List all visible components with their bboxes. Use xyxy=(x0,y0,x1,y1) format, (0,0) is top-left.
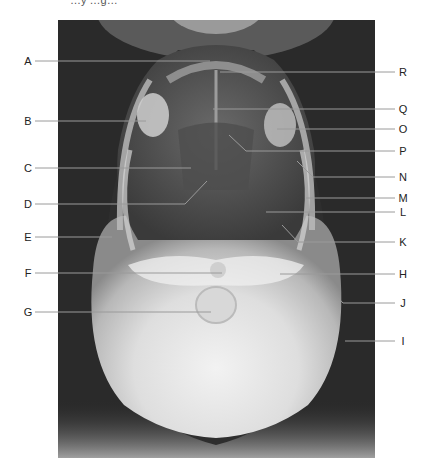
caption-fragment: …y …g… xyxy=(70,0,118,6)
label-g: G xyxy=(22,306,34,318)
label-o: O xyxy=(397,123,409,135)
label-d: D xyxy=(22,198,34,210)
label-f: F xyxy=(22,267,34,279)
label-h: H xyxy=(397,268,409,280)
label-b: B xyxy=(22,115,34,127)
label-l: L xyxy=(397,206,409,218)
label-q: Q xyxy=(397,103,409,115)
label-j: J xyxy=(397,297,409,309)
label-i: I xyxy=(397,335,409,347)
label-m: M xyxy=(397,192,409,204)
label-r: R xyxy=(397,66,409,78)
label-a: A xyxy=(22,55,34,67)
label-c: C xyxy=(22,162,34,174)
label-e: E xyxy=(22,231,34,243)
label-p: P xyxy=(397,145,409,157)
label-k: K xyxy=(397,236,409,248)
label-n: N xyxy=(397,171,409,183)
skull-radiograph xyxy=(58,20,375,458)
radiograph-illustration xyxy=(58,20,375,458)
